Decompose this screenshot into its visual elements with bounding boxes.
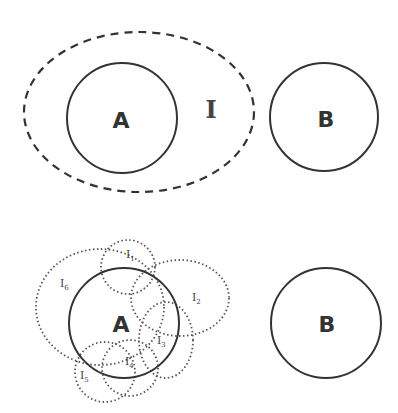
subregion-i4-label: I4	[125, 355, 134, 370]
set-a-label-bottom: A	[112, 312, 129, 337]
set-b-label: B	[318, 107, 335, 132]
diagram-canvas: A I B A B I1 I2 I3 I4 I5	[0, 0, 398, 413]
subregion-i2-label: I2	[192, 291, 201, 306]
subregion-i5-label: I5	[80, 369, 89, 384]
subregion-i3-ellipse	[139, 302, 193, 378]
subregion-i6-ellipse	[36, 249, 164, 365]
region-i-label: I	[205, 95, 216, 124]
subregion-i1-label: I1	[126, 248, 135, 263]
subregion-i6-label: I6	[60, 277, 69, 292]
subregion-i3-label: I3	[157, 334, 166, 349]
top-panel: A I B	[24, 32, 378, 192]
set-b-label-bottom: B	[319, 312, 336, 337]
bottom-panel: A B I1 I2 I3 I4 I5 I6	[36, 240, 381, 402]
region-i-dashed-ellipse	[24, 32, 254, 192]
set-a-label: A	[112, 108, 129, 133]
